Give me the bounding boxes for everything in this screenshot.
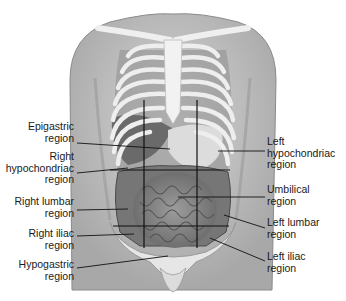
label-line: Umbilical (267, 184, 345, 196)
label-epigastric-region: Epigastric region (12, 121, 74, 144)
label-right-hypochondriac-region: Right hypochondriac region (2, 151, 74, 186)
label-left-hypochondriac-region: Left hypochondriac region (267, 136, 345, 171)
label-line: Right (2, 151, 74, 163)
label-left-iliac-region: Left iliac region (267, 251, 345, 274)
label-right-lumbar-region: Right lumbar region (2, 196, 74, 219)
label-line: region (2, 208, 74, 220)
label-line: Epigastric (12, 121, 74, 133)
label-line: Right iliac (2, 228, 74, 240)
label-line: region (2, 174, 74, 186)
label-umbilical-region: Umbilical region (267, 184, 345, 207)
label-line: region (2, 271, 74, 283)
label-line: region (267, 229, 345, 241)
label-line: Left lumbar (267, 217, 345, 229)
label-left-lumbar-region: Left lumbar region (267, 217, 345, 240)
label-line: region (2, 240, 74, 252)
label-line: region (267, 263, 345, 275)
label-line: Left (267, 136, 345, 148)
label-line: region (267, 196, 345, 208)
sternum (164, 40, 182, 124)
label-right-iliac-region: Right iliac region (2, 228, 74, 251)
label-hypogastric-region: Hypogastric region (2, 259, 74, 282)
label-line: region (12, 133, 74, 145)
label-line: Right lumbar (2, 196, 74, 208)
label-line: Hypogastric (2, 259, 74, 271)
label-line: region (267, 159, 345, 171)
label-line: Left iliac (267, 251, 345, 263)
